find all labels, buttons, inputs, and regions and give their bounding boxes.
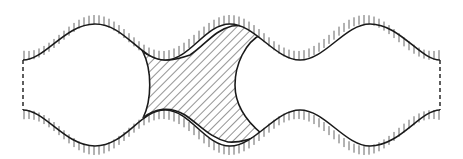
channel-diagram [0,0,463,159]
hatched-region [143,25,262,142]
